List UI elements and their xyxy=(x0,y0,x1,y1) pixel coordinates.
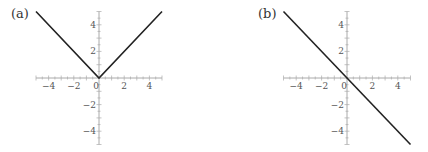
y-tick-label: 4 xyxy=(90,20,96,30)
panel-b: (b) −4−202442−2−4 xyxy=(214,0,428,152)
x-tick-label: 2 xyxy=(370,81,376,91)
x-tick-label: −4 xyxy=(290,81,304,91)
x-tick-label: 2 xyxy=(121,81,127,91)
chart-a: −4−202442−2−4 xyxy=(0,0,214,152)
x-tick-label: 0 xyxy=(341,81,347,91)
y-tick-label: 4 xyxy=(338,20,344,30)
x-tick-label: −4 xyxy=(42,81,56,91)
chart-b: −4−202442−2−4 xyxy=(214,0,428,152)
y-tick-label: −4 xyxy=(331,126,345,136)
y-tick-label: 2 xyxy=(338,46,344,56)
x-tick-label: 4 xyxy=(395,81,401,91)
y-tick-label: −2 xyxy=(83,100,96,110)
panel-a: (a) −4−202442−2−4 xyxy=(0,0,214,152)
y-tick-label: 2 xyxy=(90,46,96,56)
y-tick-label: −2 xyxy=(331,100,344,110)
y-tick-label: −4 xyxy=(83,126,97,136)
x-tick-label: −2 xyxy=(67,81,80,91)
x-tick-label: −2 xyxy=(315,81,328,91)
x-tick-label: 4 xyxy=(147,81,153,91)
x-tick-label: 0 xyxy=(93,81,99,91)
